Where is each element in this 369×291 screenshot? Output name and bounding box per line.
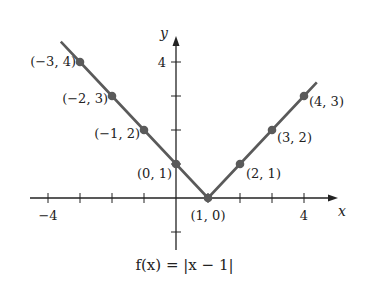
- point-label: (−1, 2): [94, 126, 140, 141]
- point-label: (2, 1): [246, 166, 281, 181]
- data-point: [268, 126, 277, 135]
- absolute-value-graph: −444xy (−3, 4)(−2, 3)(−1, 2)(0, 1)(1, 0)…: [0, 0, 369, 291]
- y-axis-label: y: [159, 25, 169, 41]
- data-point: [172, 160, 181, 169]
- data-point: [140, 126, 149, 135]
- x-tick-label: 4: [300, 208, 308, 223]
- data-point: [300, 92, 309, 101]
- data-point: [108, 92, 117, 101]
- data-point: [204, 194, 213, 203]
- y-axis-arrow-icon: [173, 36, 180, 46]
- caption-text: f(x) = |x − 1|: [135, 256, 233, 274]
- point-label: (−2, 3): [62, 91, 108, 106]
- x-tick-label: −4: [38, 208, 57, 223]
- x-axis-arrow-icon: [328, 195, 338, 202]
- point-label: (0, 1): [137, 166, 172, 181]
- point-label: (4, 3): [309, 94, 344, 109]
- point-label: (−3, 4): [30, 54, 76, 69]
- point-label: (1, 0): [191, 208, 226, 223]
- function-caption: f(x) = |x − 1|: [0, 256, 369, 274]
- data-point: [236, 160, 245, 169]
- data-point: [76, 58, 85, 67]
- point-label: (3, 2): [277, 130, 312, 145]
- x-axis-label: x: [338, 203, 346, 219]
- y-tick-label: 4: [158, 55, 166, 70]
